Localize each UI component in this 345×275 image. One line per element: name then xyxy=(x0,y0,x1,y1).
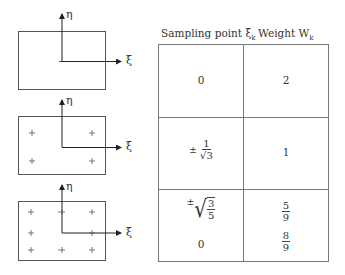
panel-one-point xyxy=(19,14,122,90)
table-grid: 0 2 ± 1 √3 1 ±√35 0 59 89 xyxy=(158,44,329,262)
xi-label: ξ xyxy=(126,140,132,153)
row1-weight: 2 xyxy=(244,74,328,86)
row3-weight-b: 89 xyxy=(244,230,328,253)
row-divider xyxy=(159,117,328,118)
eta-label: η xyxy=(66,8,73,21)
row3-weight-a: 59 xyxy=(244,200,328,223)
sampling-point-diagrams: η ξ η ξ η ξ xyxy=(0,0,150,275)
header-sampling-point: Sampling point ξk xyxy=(161,27,255,42)
eta-label: η xyxy=(66,94,73,107)
row3-point-b: 0 xyxy=(159,238,243,250)
row2-point: ± 1 √3 xyxy=(159,138,243,161)
panel-two-point xyxy=(19,100,122,175)
row3-point-a: ±√35 xyxy=(159,197,243,221)
xi-label: ξ xyxy=(126,226,132,239)
row2-weight: 1 xyxy=(244,146,328,158)
row-divider xyxy=(159,189,328,190)
gauss-quadrature-table: Sampling point ξk Weight Wk 0 2 ± 1 √3 1… xyxy=(158,0,330,275)
eta-label: η xyxy=(66,180,73,193)
row1-point: 0 xyxy=(159,74,243,86)
header-weight: Weight Wk xyxy=(258,27,314,42)
panel-three-point xyxy=(19,185,122,261)
xi-label: ξ xyxy=(126,54,132,67)
